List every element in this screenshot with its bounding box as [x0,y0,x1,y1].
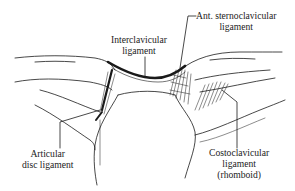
label-line: Interclavicular [111,34,167,45]
leader-costoclavicular [222,90,237,148]
label-line: Costoclavicular [209,147,269,158]
label-ant-sternoclavicular-ligament: Ant. sternoclavicular ligament [196,10,276,32]
label-line: ligament [111,45,167,56]
leader-ant-sternoclavicular [180,16,196,68]
costoclavicular-ligament [195,82,228,110]
interclavicular-ligament-band [108,62,185,78]
label-line: Articular [22,148,73,159]
right-clavicle [180,52,282,92]
label-articular-disc-ligament: Articular disc ligament [22,148,73,170]
label-costoclavicular-ligament: Costoclavicular ligament (rhomboid) [209,147,269,180]
manubrium [94,91,195,185]
left-joint-capsule [96,70,115,120]
label-line: Ant. sternoclavicular [196,10,276,21]
left-first-rib [35,105,95,150]
left-clavicle [15,56,115,112]
label-line: ligament [209,158,269,169]
label-line: ligament [196,21,276,32]
label-interclavicular-ligament: Interclavicular ligament [111,34,167,56]
label-line: disc ligament [22,159,73,170]
leader-articular-disc [60,110,100,148]
label-line: (rhomboid) [209,169,269,180]
